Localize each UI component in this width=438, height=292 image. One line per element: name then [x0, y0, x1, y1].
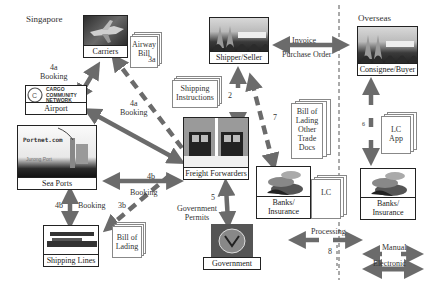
node-carriers-label: Carriers	[84, 45, 127, 57]
node-shipper-seller[interactable]: Shipper/Seller	[209, 17, 269, 64]
flow-8-num: 8	[328, 247, 332, 256]
node-carriers[interactable]: Carriers	[83, 15, 128, 58]
airplane-icon	[84, 16, 127, 46]
flow-5-num: 5	[211, 193, 215, 202]
document-airway-bill: Airway Bill	[130, 34, 162, 68]
document-lc-app: LC App	[381, 116, 417, 158]
trucks-photo	[184, 118, 248, 168]
flow-7-label: 7	[273, 113, 277, 122]
flow-invoice-label: Invoice	[292, 36, 316, 45]
coins-icon	[257, 167, 310, 197]
region-label-overseas: Overseas	[358, 14, 391, 23]
flow-4b-shipping-num: 4b	[55, 201, 63, 210]
node-consignee-buyer[interactable]: Consignee/Buyer	[357, 26, 418, 76]
legend-electronic-label: Electronic	[373, 259, 406, 268]
cargo-ship-icon	[44, 226, 98, 255]
port-photo: Portnet.com Jurong Port	[18, 126, 96, 178]
flow-purchase-order-label: Purchase Order	[282, 50, 332, 59]
node-freight-label: Freight Forwarders	[184, 167, 248, 179]
node-sea-ports[interactable]: Portnet.com Jurong Port Sea Ports	[17, 125, 97, 190]
document-bill-of-lading: Bill of Lading	[112, 224, 146, 260]
flow-3a-label: 3a	[148, 55, 156, 64]
trade-flow-diagram: Singapore Overseas Carriers Airway Bill …	[0, 0, 438, 292]
node-banks-overseas-label: Banks/ Insurance	[372, 199, 403, 217]
node-banks-insurance-local[interactable]: Banks/ Insurance	[256, 166, 311, 219]
node-banks-local-label: Banks/ Insurance	[268, 198, 299, 216]
document-shipping-instructions: Shipping Instructions	[172, 78, 222, 110]
flow-4a-airport-label: 4a Booking	[40, 63, 68, 81]
node-airport-label: Airport	[26, 102, 86, 114]
flow-4b-seaport-label: Booking	[130, 188, 158, 197]
region-label-singapore: Singapore	[26, 15, 63, 24]
node-shipping-lines-label: Shipping Lines	[44, 254, 98, 266]
flow-5-label: Government Permits	[177, 204, 217, 222]
flow-6-label: 6	[362, 120, 365, 129]
node-airport[interactable]: C CARGO COMMUNITY NETWORK Airport	[25, 85, 87, 115]
node-consignee-label: Consignee/Buyer	[358, 63, 417, 75]
node-banks-insurance-overseas[interactable]: Banks/ Insurance	[360, 168, 416, 220]
node-shipper-label: Shipper/Seller	[210, 51, 268, 63]
node-government[interactable]: Government	[203, 224, 261, 270]
coins-icon	[361, 169, 415, 198]
flow-8-processing-label: Processing	[311, 227, 346, 236]
svg-text:C: C	[32, 92, 37, 99]
factory-trees-photo	[358, 27, 417, 64]
document-bill-of-lading-other-trade-docs: Bill of Lading Other Trade Docs	[291, 103, 331, 163]
factory-trees-photo	[210, 18, 268, 52]
flow-4b-seaport-num: 4b	[147, 172, 155, 181]
flow-4a-freight-label: 4a Booking	[120, 99, 148, 117]
flow-3b-label: 3b	[118, 201, 126, 210]
node-government-label: Government	[203, 257, 261, 270]
flow-4b-shipping-label: Booking	[78, 201, 106, 210]
node-shipping-lines[interactable]: Shipping Lines	[43, 225, 99, 267]
government-crest-icon	[211, 224, 253, 257]
node-sea-ports-label: Sea Ports	[18, 177, 96, 189]
node-freight-forwarders[interactable]: Freight Forwarders	[183, 117, 249, 180]
document-lc: LC	[311, 179, 347, 223]
flow-2-label: 2	[228, 91, 232, 100]
legend-manual-label: Manual	[382, 243, 406, 252]
